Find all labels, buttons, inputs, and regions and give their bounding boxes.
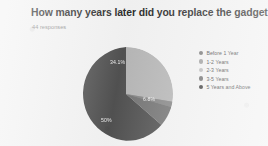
legend-label: 3-5 Years (206, 76, 228, 82)
pie-chart: 34.1% 6.8% 50% (79, 47, 173, 141)
form-response-card: How many years later did you replace the… (0, 0, 268, 146)
legend-item-3-5-years[interactable]: 3-5 Years (199, 74, 265, 82)
legend-label: 1-2 Years (206, 59, 228, 65)
legend-swatch-icon (199, 85, 203, 89)
legend-item-5-years-and-above[interactable]: 5 Years and Above (199, 83, 265, 91)
pie-label-3-5-years: 6.8% (143, 96, 155, 102)
legend-swatch-icon (199, 76, 203, 80)
legend-label: 5 Years and Above (206, 84, 250, 90)
response-count-label: 44 responses (32, 23, 66, 31)
legend-swatch-icon (199, 68, 203, 72)
legend-swatch-icon (199, 59, 203, 63)
legend-item-1-2-years[interactable]: 1-2 Years (199, 57, 265, 65)
pie-label-5-years-and-above: 50% (101, 117, 112, 123)
pie-label-before-1-year: 34.1% (110, 59, 125, 65)
pie-slices (79, 47, 173, 141)
chart-legend: Before 1 Year 1-2 Years 2-3 Years 3-5 Ye… (199, 49, 265, 91)
legend-item-before-1-year[interactable]: Before 1 Year (199, 49, 265, 57)
legend-label: 2-3 Years (206, 67, 228, 73)
legend-label: Before 1 Year (206, 50, 238, 56)
page-title: How many years later did you replace the… (31, 7, 257, 19)
legend-item-2-3-years[interactable]: 2-3 Years (199, 66, 265, 74)
pie-svg (79, 47, 173, 141)
legend-swatch-icon (199, 51, 203, 55)
